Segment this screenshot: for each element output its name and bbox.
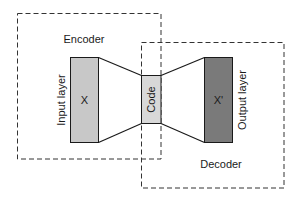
decoder-label: Decoder <box>200 158 242 170</box>
decoder-top-edge <box>161 58 205 76</box>
code-label: Code <box>145 86 157 112</box>
decoder-bottom-edge <box>161 124 205 143</box>
input-layer-symbol: X <box>81 94 89 106</box>
encoder-label: Encoder <box>64 33 105 45</box>
encoder-bottom-edge <box>99 124 142 143</box>
output-layer-label: Output layer <box>236 70 248 130</box>
encoder-top-edge <box>99 58 142 76</box>
input-layer-label: Input layer <box>55 74 67 126</box>
autoencoder-diagram: Encoder Decoder X X' Input layer Code Ou… <box>0 0 302 201</box>
output-layer-symbol: X' <box>214 94 223 106</box>
